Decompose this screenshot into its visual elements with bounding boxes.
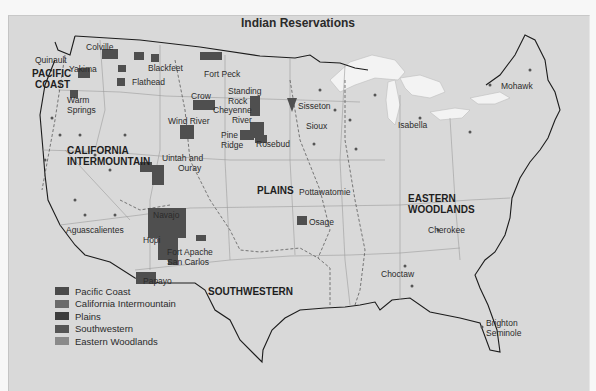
label-quinault: Quinault — [35, 55, 67, 65]
label-pine-ridge: Pine Ridge — [221, 130, 243, 150]
map-title: Indian Reservations — [241, 16, 355, 30]
legend-swatch — [55, 325, 69, 333]
label-san-carlos: San Carlos — [167, 257, 209, 267]
region-label-pacific-coast: PACIFIC COAST — [32, 68, 71, 90]
label-sioux: Sioux — [306, 121, 327, 131]
region-label-eastern-woodlands: EASTERN WOODLANDS — [408, 193, 475, 215]
state-lines — [43, 40, 510, 305]
legend-swatch — [55, 337, 69, 345]
legend-item-southwestern: Southwestern — [55, 323, 176, 336]
great-lakes — [330, 55, 510, 125]
label-standing-rock: Standing Rock — [228, 86, 262, 106]
map-legend: Pacific Coast California Intermountain P… — [55, 285, 176, 348]
legend-swatch — [55, 287, 69, 295]
legend-item-california-intermountain: California Intermountain — [55, 298, 176, 311]
label-blackfeet: Blackfeet — [148, 63, 183, 73]
label-flathead: Flathead — [132, 77, 165, 87]
label-isabella: Isabella — [398, 120, 427, 130]
region-label-plains: PLAINS — [257, 185, 294, 196]
legend-item-eastern-woodlands: Eastern Woodlands — [55, 335, 176, 348]
label-aguascalientes: Aguascalientes — [66, 225, 124, 235]
label-rosebud: Rosebud — [256, 139, 290, 149]
label-sisseton: Sisseton — [298, 101, 331, 111]
label-fort-peck: Fort Peck — [204, 69, 240, 79]
label-wind-river: Wind River — [168, 116, 210, 126]
legend-swatch — [55, 312, 69, 320]
label-pottawatomie: Pottawatomie — [299, 187, 351, 197]
label-colville: Colville — [86, 42, 113, 52]
label-warm-springs: Warm Springs — [67, 95, 96, 115]
label-yakima: Yakima — [69, 64, 97, 74]
legend-swatch — [55, 300, 69, 308]
label-cherokee: Cherokee — [428, 225, 465, 235]
label-crow: Crow — [191, 91, 211, 101]
label-choctaw: Choctaw — [381, 269, 414, 279]
label-cheyenne-river: Cheyenne River — [213, 105, 252, 125]
region-label-southwestern: SOUTHWESTERN — [208, 286, 293, 297]
legend-item-plains: Plains — [55, 310, 176, 323]
legend-item-pacific-coast: Pacific Coast — [55, 285, 176, 298]
label-uintah-ouray: Uintah and Ouray — [162, 153, 203, 173]
label-navajo: Navajo — [153, 210, 179, 220]
label-osage: Osage — [309, 217, 334, 227]
label-brighton-seminole: Brighton Seminole — [486, 318, 521, 338]
label-mohawk: Mohawk — [501, 81, 533, 91]
label-fort-apache: Fort Apache — [167, 247, 213, 257]
region-label-california-intermountain: CALIFORNIA INTERMOUNTAIN — [67, 145, 150, 167]
label-hopi: Hopi — [143, 235, 160, 245]
